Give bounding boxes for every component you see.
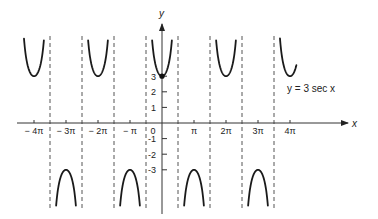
y-tick-label: 1 <box>151 103 156 113</box>
x-axis-label: x <box>351 118 358 129</box>
x-tick-label: − π <box>123 126 137 136</box>
curve-branch <box>120 170 140 206</box>
y-tick-label: -3 <box>148 165 156 175</box>
x-tick-label: − 4π <box>25 126 44 136</box>
curve-branch <box>56 170 76 206</box>
y-tick-label: 2 <box>151 87 156 97</box>
curve-branches <box>24 38 296 205</box>
curve-branch <box>24 39 44 76</box>
curve-branch <box>248 170 268 206</box>
curve-branch <box>216 40 236 76</box>
y-tick-label: 3 <box>151 72 156 82</box>
marked-point <box>159 74 164 79</box>
equation-label: y = 3 sec x <box>287 83 335 94</box>
x-tick-label: − 2π <box>89 126 108 136</box>
y-tick-label: -1 <box>148 134 156 144</box>
secant-graph: − 4π− 3π− 2π− π0π2π3π4π 321-1-2-3 x y y … <box>0 0 378 219</box>
x-tick-label: 2π <box>220 126 231 136</box>
y-axis-label: y <box>158 8 165 19</box>
x-tick-label: − 3π <box>57 126 76 136</box>
x-tick-label: π <box>191 126 197 136</box>
curve-branch <box>184 170 204 206</box>
curve-branch <box>88 40 108 76</box>
x-tick-label: 4π <box>284 126 295 136</box>
y-tick-label: -2 <box>148 150 156 160</box>
x-ticks: − 4π− 3π− 2π− π0π2π3π4π <box>25 120 296 136</box>
curve-branch <box>280 38 296 76</box>
axes <box>17 24 348 214</box>
x-tick-label: 3π <box>252 126 263 136</box>
